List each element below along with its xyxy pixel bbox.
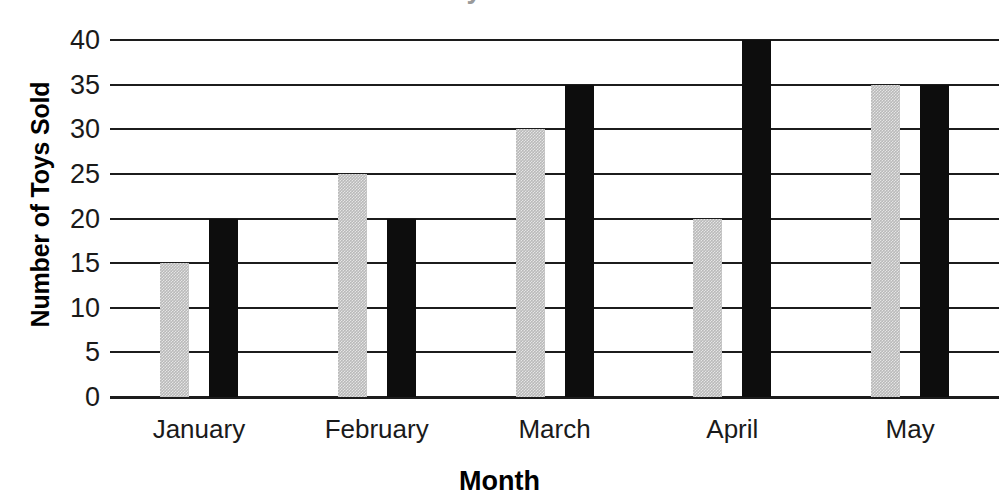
y-tick-label: 35 [30,71,100,98]
x-tick-label-february: February [325,414,429,445]
x-tick-label-march: March [518,414,590,445]
bar-march-black-series [565,85,594,397]
bar-april-gray-series [693,219,722,398]
x-axis-title: Month [0,466,999,497]
bar-may-gray-series [871,85,900,397]
y-tick-label: 10 [30,294,100,321]
bar-april-black-series [742,40,771,397]
bar-january-black-series [209,219,238,398]
y-tick-label: 0 [30,384,100,411]
bar-may-black-series [920,85,949,397]
y-axis-tick-labels: 0510152025303540 [30,0,100,503]
bar-january-gray-series [160,263,189,397]
bar-february-black-series [387,219,416,398]
x-axis-tick-labels: JanuaryFebruaryMarchAprilMay [110,0,999,503]
y-tick-label: 15 [30,250,100,277]
y-tick-label: 5 [30,339,100,366]
bar-february-gray-series [338,174,367,397]
x-tick-label-april: April [706,414,758,445]
y-tick-label: 30 [30,116,100,143]
bar-chart: Toys Sold Number of Toys Sold 0510152025… [0,0,999,503]
x-tick-label-may: May [886,414,935,445]
x-tick-label-january: January [153,414,246,445]
y-tick-label: 25 [30,160,100,187]
y-tick-label: 20 [30,205,100,232]
bar-march-gray-series [516,129,545,397]
y-tick-label: 40 [30,27,100,54]
